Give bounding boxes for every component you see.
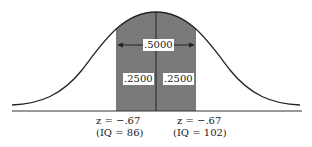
left-iq-label: (IQ = 86) [96,127,143,138]
left-area-label: .2500 [123,73,154,85]
total-area-label: .5000 [143,39,174,51]
right-z-label: z = −.67 [177,115,221,126]
right-area-label: .2500 [163,73,194,85]
normal-curve-graphic [0,0,312,147]
normal-curve-figure: .5000 .2500 .2500 z = −.67 (IQ = 86) z =… [0,0,312,147]
left-z-label: z = −.67 [96,115,140,126]
right-iq-label: (IQ = 102) [173,127,227,138]
